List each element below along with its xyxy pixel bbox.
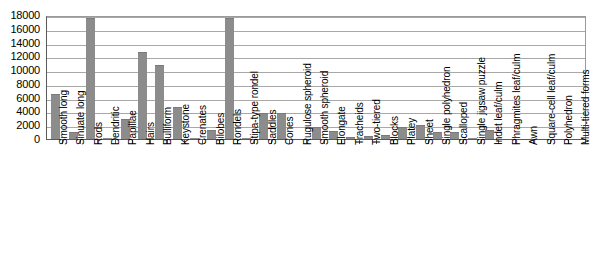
- x-axis-tick-label: Sheet: [425, 119, 435, 145]
- x-axis-tick-label: Polyhedron: [564, 95, 574, 145]
- x-axis-label-cell: Polyhedron: [551, 145, 568, 256]
- x-axis-label-cell: Dendritic: [98, 145, 115, 256]
- y-axis-tick-label: 8000: [16, 79, 40, 90]
- y-axis-tick-label: 4000: [16, 106, 40, 117]
- x-axis-label-cell: Elongate: [325, 145, 342, 256]
- x-axis-label-cell: Hairs: [133, 145, 150, 256]
- y-axis-tick-label: 6000: [16, 93, 40, 104]
- x-axis-tick-label: Keystone: [181, 104, 191, 145]
- x-axis-label-cell: Rods: [81, 145, 98, 256]
- x-axis-label-cell: Keystone: [168, 145, 185, 256]
- x-axis-tick-label: Smooth long: [59, 90, 69, 145]
- x-axis-label-cell: Bilobes: [203, 145, 220, 256]
- x-axis-tick-label: Single polyhedron: [442, 67, 452, 145]
- y-axis-tick-label: 16000: [10, 24, 40, 35]
- x-axis-tick-label: Bulliform: [163, 107, 173, 145]
- x-axis-label-cell: Square-cell leaf/culm: [534, 145, 551, 256]
- x-axis-tick-label: Hairs: [146, 122, 156, 145]
- x-axis-tick-label: Bilobes: [216, 113, 226, 145]
- bar-chart: 1800016000140001200010000800060004000200…: [0, 0, 594, 256]
- y-axis-tick-label: 14000: [10, 38, 40, 49]
- x-axis-tick-label: Single jigsaw puzzle: [477, 57, 487, 145]
- x-axis-tick-label: Rugulose spheroid: [303, 63, 313, 145]
- x-axis-label-cell: Tracheids: [342, 145, 359, 256]
- x-axis-tick-label: Platey: [407, 118, 417, 145]
- x-axis-label-cell: Rondels: [220, 145, 237, 256]
- y-axis-tick-label: 10000: [10, 65, 40, 76]
- x-axis-tick-label: Sinuate long: [76, 91, 86, 145]
- x-axis: Smooth longSinuate longRodsDendriticPapi…: [46, 145, 586, 256]
- x-axis-tick-label: Cones: [285, 117, 295, 145]
- x-axis-tick-label: Blocks: [390, 116, 400, 145]
- x-axis-label-cell: Smooth long: [46, 145, 63, 256]
- x-axis-tick-label: Crenates: [198, 105, 208, 145]
- x-axis-label-cell: Two-tiered: [360, 145, 377, 256]
- x-axis-label-cell: Rugulose spheroid: [290, 145, 307, 256]
- x-axis-tick-label: Rods: [94, 122, 104, 145]
- x-axis-tick-label: Scalloped: [459, 102, 469, 145]
- x-axis-tick-label: Smooth spheroid: [320, 71, 330, 145]
- x-axis-tick-label: Papillae: [128, 110, 138, 145]
- x-axis-label-cell: Papillae: [116, 145, 133, 256]
- y-axis-tick-label: 2000: [16, 120, 40, 131]
- y-axis: 1800016000140001200010000800060004000200…: [0, 0, 44, 256]
- x-axis-label-cell: Sheet: [412, 145, 429, 256]
- x-axis-label-cell: Platey: [394, 145, 411, 256]
- x-axis-label-cell: Multi-tiered forms: [569, 145, 586, 256]
- x-axis-label-cell: Blocks: [377, 145, 394, 256]
- x-axis-label-cell: Saddles: [255, 145, 272, 256]
- x-axis-label-cell: Indet leaf/culm: [482, 145, 499, 256]
- x-axis-label-cell: Bulliform: [151, 145, 168, 256]
- x-axis-label-cell: Awn: [516, 145, 533, 256]
- x-axis-tick-label: Square-cell leaf/culm: [547, 54, 557, 145]
- x-axis-tick-label: Rondels: [233, 109, 243, 145]
- x-axis-label-cell: Smooth spheroid: [307, 145, 324, 256]
- x-axis-tick-label: Saddles: [268, 110, 278, 145]
- x-axis-tick-label: Two-tiered: [372, 99, 382, 145]
- bar[interactable]: [86, 18, 95, 139]
- x-axis-tick-label: Phragmites leaf/culm: [512, 54, 522, 145]
- x-axis-label-cell: Single polyhedron: [429, 145, 446, 256]
- x-axis-label-cell: Stipa-type rondel: [238, 145, 255, 256]
- x-axis-tick-label: Stipa-type rondel: [250, 71, 260, 145]
- x-axis-label-cell: Cones: [272, 145, 289, 256]
- y-axis-tick-label: 12000: [10, 51, 40, 62]
- x-axis-label-cell: Phragmites leaf/culm: [499, 145, 516, 256]
- x-axis-label-cell: Sinuate long: [63, 145, 80, 256]
- x-axis-label-cell: Single jigsaw puzzle: [464, 145, 481, 256]
- x-axis-tick-label: Dendritic: [111, 106, 121, 145]
- x-axis-label-cell: Crenates: [185, 145, 202, 256]
- x-axis-tick-label: Awn: [529, 126, 539, 145]
- y-axis-tick-label: 18000: [10, 10, 40, 21]
- y-axis-tick-label: 0: [34, 134, 40, 145]
- x-axis-tick-label: Elongate: [337, 106, 347, 145]
- x-axis-tick-label: Indet leaf/culm: [494, 81, 504, 145]
- x-axis-tick-label: Multi-tiered forms: [581, 70, 591, 145]
- x-axis-label-cell: Scalloped: [447, 145, 464, 256]
- x-axis-tick-label: Tracheids: [355, 102, 365, 145]
